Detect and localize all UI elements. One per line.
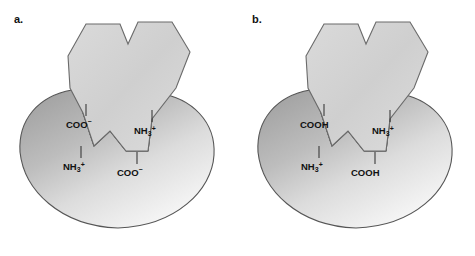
panel-b: b.	[238, 0, 475, 256]
panel-b-label: b.	[252, 13, 262, 25]
panel-a-label: a.	[14, 13, 23, 25]
panel-b-graphic: COOH NH3+ NH3+ COOH	[238, 0, 475, 256]
chem-group-b-ligand-left: COOH	[300, 119, 329, 130]
figure-root: a.	[0, 0, 475, 256]
panel-a-graphic: COO– NH3+ NH3+ COO–	[0, 0, 237, 256]
chem-group-b-receptor-right: COOH	[351, 167, 380, 178]
panel-a: a.	[0, 0, 237, 256]
